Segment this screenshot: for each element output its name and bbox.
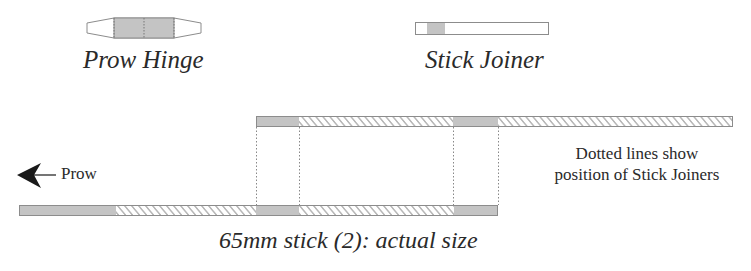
stick-bottom — [19, 205, 498, 216]
prow-label: Prow — [61, 164, 97, 184]
diagram-caption: 65mm stick (2): actual size — [219, 227, 478, 254]
joiner-note-line1: Dotted lines show — [527, 143, 747, 164]
stick-top — [256, 116, 733, 127]
prow-hinge-label: Prow Hinge — [83, 46, 204, 74]
joiner-position-lines — [257, 127, 499, 205]
joiner-note: Dotted lines show position of Stick Join… — [527, 143, 747, 185]
stick-joiner-label: Stick Joiner — [425, 46, 544, 74]
stick-joiner-shape — [416, 23, 549, 35]
arrow-left-icon — [17, 163, 56, 188]
joiner-note-line2: position of Stick Joiners — [527, 164, 747, 185]
stick-assembly-diagram: Prow Hinge Stick Joiner Prow Dotted line… — [0, 0, 751, 271]
prow-hinge-shape — [87, 18, 201, 38]
